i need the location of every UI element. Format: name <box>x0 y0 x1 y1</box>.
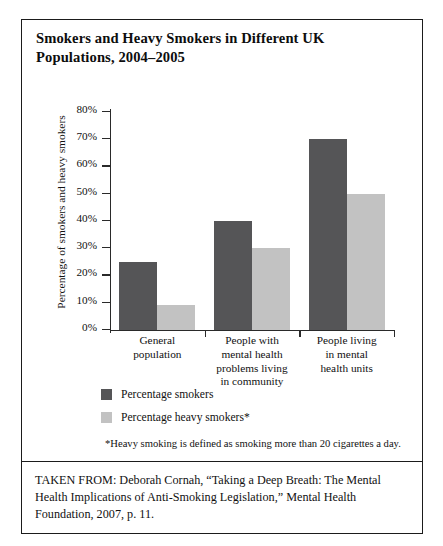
citation-divider <box>22 461 422 462</box>
legend-label: Percentage heavy smokers* <box>121 411 250 424</box>
y-axis-tick: 40% <box>102 220 110 221</box>
bar-group <box>205 112 300 330</box>
y-axis-tick: 80% <box>102 111 110 112</box>
bar-group <box>110 112 205 330</box>
y-axis-tick: 70% <box>102 138 110 139</box>
y-axis-tick-label: 60% <box>76 157 97 169</box>
x-axis-label: People withmental healthproblems livingi… <box>205 334 300 389</box>
figure-root: Smokers and Heavy Smokers in Different U… <box>0 0 443 546</box>
x-axis-line <box>110 330 394 331</box>
y-axis-tick: 10% <box>102 302 110 303</box>
figure-title: Smokers and Heavy Smokers in Different U… <box>36 29 386 68</box>
source-citation: TAKEN FROM: Deborah Cornah, “Taking a De… <box>35 472 407 522</box>
y-axis-tick-label: 10% <box>76 294 97 306</box>
legend-item: Percentage heavy smokers* <box>101 411 401 424</box>
legend-swatch <box>101 389 112 400</box>
bar <box>214 221 252 330</box>
bar <box>309 139 347 330</box>
x-axis-label-line: health units <box>299 362 394 376</box>
y-axis-tick-label: 50% <box>76 185 97 197</box>
y-axis-tick-label: 40% <box>76 212 97 224</box>
y-axis-tick-label: 30% <box>76 239 97 251</box>
x-axis-label: People livingin mentalhealth units <box>299 334 394 375</box>
y-axis-tick-label: 70% <box>76 130 97 142</box>
x-axis-label-line: in mental <box>299 348 394 362</box>
y-axis-tick: 20% <box>102 274 110 275</box>
x-axis-separator-tick <box>394 330 395 337</box>
x-axis-label-line: People with <box>205 334 300 348</box>
y-axis-tick-label: 0% <box>82 321 97 333</box>
bar <box>252 248 290 330</box>
chart-legend: Percentage smokersPercentage heavy smoke… <box>101 388 401 434</box>
y-axis-title: Percentage of smokers and heavy smokers <box>55 102 67 322</box>
bar-group <box>299 112 394 330</box>
y-axis-tick: 50% <box>102 193 110 194</box>
legend-label: Percentage smokers <box>121 388 213 401</box>
x-axis-label-line: People living <box>299 334 394 348</box>
footnote: *Heavy smoking is defined as smoking mor… <box>105 438 415 449</box>
y-axis-tick-label: 80% <box>76 103 97 115</box>
legend-item: Percentage smokers <box>101 388 401 401</box>
x-axis-label-line: mental health <box>205 348 300 362</box>
plot-area: 0%10%20%30%40%50%60%70%80% Generalpopula… <box>110 112 394 330</box>
y-axis-tick: 30% <box>102 247 110 248</box>
x-axis-label-line: population <box>110 348 205 362</box>
x-axis-label-line: General <box>110 334 205 348</box>
bar <box>157 305 195 330</box>
bar <box>119 262 157 330</box>
x-axis-label: Generalpopulation <box>110 334 205 362</box>
chart-area: Percentage of smokers and heavy smokers … <box>22 86 424 416</box>
figure-box: Smokers and Heavy Smokers in Different U… <box>21 19 423 534</box>
y-axis-tick-label: 20% <box>76 266 97 278</box>
x-axis-label-line: problems living <box>205 362 300 376</box>
y-axis-tick: 60% <box>102 165 110 166</box>
bar <box>347 194 385 330</box>
y-axis-tick: 0% <box>102 329 110 330</box>
legend-swatch <box>101 412 112 423</box>
